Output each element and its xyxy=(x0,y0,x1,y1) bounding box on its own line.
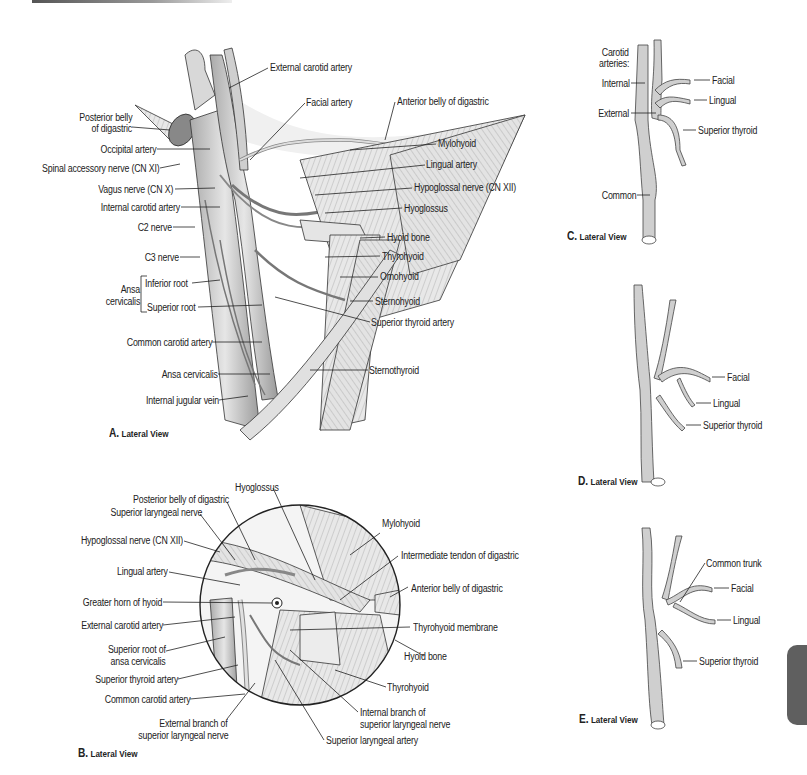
label-superior-root: Superior root xyxy=(147,302,196,313)
label-b-internal-branch-1: Internal branch of xyxy=(360,707,425,718)
label-c-lingual: Lingual xyxy=(709,95,736,106)
label-ansa-cervicalis: Ansa cervicalis xyxy=(162,369,218,380)
label-d-facial: Facial xyxy=(727,372,749,383)
label-occipital-artery: Occipital artery xyxy=(100,144,156,155)
panel-e-drawing xyxy=(642,528,715,729)
label-b-posterior-belly-digastric: Posterior belly of digastric xyxy=(133,494,229,505)
caption-panel-d: D. Lateral View xyxy=(578,474,637,488)
label-b-common-carotid-artery: Common carotid artery xyxy=(104,694,190,705)
label-c-external: External xyxy=(598,108,629,119)
label-hypoglossal-nerve: Hypoglossal nerve (CN XII) xyxy=(414,182,516,193)
label-b-external-branch-1: External branch of xyxy=(160,718,228,729)
label-common-carotid-artery: Common carotid artery xyxy=(126,337,212,348)
label-c-facial: Facial xyxy=(712,75,734,86)
label-c3-nerve: C3 nerve xyxy=(145,252,179,263)
label-c-arteries: arteries: xyxy=(599,58,629,69)
label-c-superior-thyroid: Superior thyroid xyxy=(698,125,757,136)
label-b-lingual-artery: Lingual artery xyxy=(117,566,168,577)
label-b-thyrohyoid: Thyrohyoid xyxy=(387,682,429,693)
label-cervicalis: cervicalis xyxy=(106,296,140,307)
label-e-facial: Facial xyxy=(731,583,753,594)
label-ansa: Ansa xyxy=(121,284,140,295)
panel-c-drawing xyxy=(635,40,690,244)
caption-panel-c: C. Lateral View xyxy=(567,229,626,243)
label-spinal-accessory-nerve: Spinal accessory nerve (CN XI) xyxy=(42,163,159,174)
label-b-external-carotid-artery: External carotid artery xyxy=(81,620,163,631)
label-d-lingual: Lingual xyxy=(713,398,740,409)
label-e-common-trunk: Common trunk xyxy=(706,558,762,569)
label-b-anterior-belly-digastric: Anterior belly of digastric xyxy=(411,583,503,594)
caption-panel-b: B. Lateral View xyxy=(78,746,137,760)
label-omohyoid: Omohyoid xyxy=(380,271,419,282)
label-b-internal-branch-2: superior laryngeal nerve xyxy=(360,719,450,730)
label-vagus-nerve: Vagus nerve (CN X) xyxy=(98,184,173,195)
label-mylohyoid: Mylohyoid xyxy=(438,138,476,149)
label-b-thyrohyoid-membrane: Thyrohyoid membrane xyxy=(413,622,498,633)
label-b-greater-horn-hyoid: Greater horn of hyoid xyxy=(83,597,162,608)
label-b-intermediate-tendon: Intermediate tendon of digastric xyxy=(401,550,519,561)
label-b-hyoid-bone: Hyoid bone xyxy=(404,651,447,662)
label-b-hyoglossus: Hyoglossus xyxy=(235,482,279,493)
label-anterior-belly-digastric: Anterior belly of digastric xyxy=(397,96,489,107)
label-e-lingual: Lingual xyxy=(733,615,760,626)
caption-panel-a: A. Lateral View xyxy=(109,426,168,440)
label-lingual-artery: Lingual artery xyxy=(426,159,477,170)
label-thyrohyoid: Thyrohyoid xyxy=(382,251,424,262)
label-hyoid-bone: Hyoid bone xyxy=(387,232,430,243)
label-superior-thyroid-artery: Superior thyroid artery xyxy=(371,317,454,328)
caption-panel-e: E. Lateral View xyxy=(579,712,638,726)
label-b-mylohyoid: Mylohyoid xyxy=(382,518,420,529)
label-b-superior-root-2: ansa cervicalis xyxy=(111,656,166,667)
label-internal-carotid-artery: Internal carotid artery xyxy=(101,202,180,213)
label-c2-nerve: C2 nerve xyxy=(138,222,172,233)
label-b-superior-laryngeal-nerve: Superior laryngeal nerve xyxy=(110,507,202,518)
label-inferior-root: Inferior root xyxy=(145,278,188,289)
label-b-superior-laryngeal-artery: Superior laryngeal artery xyxy=(326,735,418,746)
label-sternothyroid: Sternothyroid xyxy=(369,365,419,376)
label-c-internal: Internal xyxy=(602,78,630,89)
label-b-superior-root-1: Superior root of xyxy=(108,644,166,655)
label-posterior-belly-2: of digastric xyxy=(92,123,132,134)
label-b-hypoglossal-nerve: Hypoglossal nerve (CN XII) xyxy=(81,535,183,546)
label-b-superior-thyroid-artery: Superior thyroid artery xyxy=(95,674,178,685)
panel-d-drawing xyxy=(634,285,710,486)
label-d-superior-thyroid: Superior thyroid xyxy=(703,420,762,431)
label-e-superior-thyroid: Superior thyroid xyxy=(699,656,758,667)
label-c-common: Common xyxy=(601,190,636,201)
panel-b-drawing xyxy=(200,505,400,705)
label-internal-jugular-vein: Internal jugular vein xyxy=(146,395,219,406)
label-b-external-branch-2: superior laryngeal nerve xyxy=(138,730,228,741)
label-posterior-belly-1: Posterior belly xyxy=(79,112,132,123)
label-hyoglossus: Hyoglossus xyxy=(404,203,448,214)
label-sternohyoid: Sternohyoid xyxy=(375,296,420,307)
chapter-thumb-tab xyxy=(787,645,807,725)
label-facial-artery: Facial artery xyxy=(306,97,352,108)
label-external-carotid-artery: External carotid artery xyxy=(270,62,352,73)
label-c-carotid: Carotid xyxy=(602,47,629,58)
